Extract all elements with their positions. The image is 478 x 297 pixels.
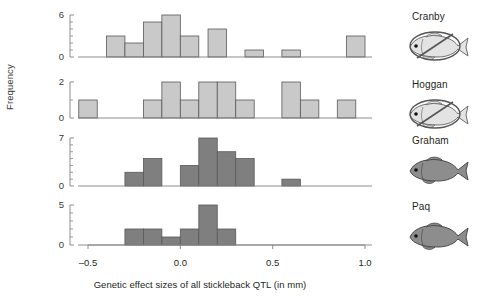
stickleback-qtl-histogram-figure: Frequency 06Cranby02Hoggan07Graham05Paq … <box>0 0 478 297</box>
x-tick-label: 0.0 <box>160 257 200 268</box>
x-tick-label: –0.5 <box>68 257 108 268</box>
x-tick-label: 1.0 <box>345 257 385 268</box>
y-tick-label: 5 <box>42 199 64 210</box>
x-tick-label: 0.5 <box>253 257 293 268</box>
population-label-paq: Paq <box>412 201 430 212</box>
bar-group <box>125 205 236 245</box>
y-axis-spine <box>70 205 74 245</box>
histogram-bar <box>199 205 217 245</box>
x-axis-title: Genetic effect sizes of all stickleback … <box>0 279 400 290</box>
x-axis-spine <box>88 245 365 249</box>
